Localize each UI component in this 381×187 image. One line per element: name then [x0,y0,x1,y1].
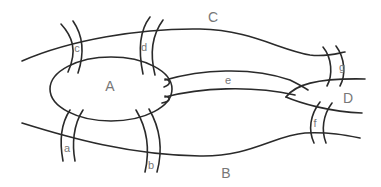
riverbank-b [22,123,360,156]
label-bridge-d: d [141,41,147,53]
river-channel-upper [165,71,308,90]
bridge-d-right [152,20,163,75]
bridge-b-left [136,110,148,172]
label-land-b: B [221,165,230,181]
konigsberg-diagram: A B C D a b c d e f g [0,0,381,187]
label-land-c: C [208,9,218,25]
label-bridge-g: g [339,61,345,73]
island-d-upper [286,79,365,97]
label-bridge-e: e [225,74,231,86]
label-bridge-a: a [64,142,71,154]
bridge-c-left [61,24,73,72]
label-bridge-f: f [313,117,317,129]
label-bridge-b: b [148,159,154,171]
label-bridge-c: c [74,42,80,54]
riverbank-c [22,29,345,61]
label-land-d: D [343,90,353,106]
river-channel-lower [165,89,295,97]
label-land-a: A [105,78,115,94]
